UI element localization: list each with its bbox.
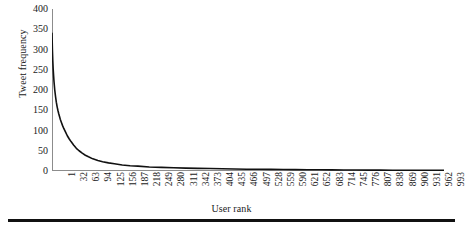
x-tick-label: 435 [237,172,247,202]
x-tick-label: 776 [371,172,381,202]
x-tick-label: 683 [335,172,345,202]
x-axis-title: User rank [0,203,463,214]
x-tick-label: 900 [420,172,430,202]
y-tick-label: 0 [18,166,48,176]
bottom-divider-rule [8,219,455,222]
series-line-tweet-frequency [52,33,444,170]
y-tick-label: 50 [18,146,48,156]
x-tick-label: 497 [262,172,272,202]
x-tick-label: 156 [128,172,138,202]
x-tick-label: 528 [274,172,284,202]
x-tick-label: 342 [201,172,211,202]
x-tick-label: 125 [116,172,126,202]
y-tick-label: 300 [18,45,48,55]
x-tick-label: 590 [298,172,308,202]
x-tick-label: 63 [91,172,101,202]
x-tick-label: 187 [140,172,150,202]
x-axis-tick-labels: 1326394125156187218249280311342373404435… [52,172,444,202]
x-tick-label: 466 [249,172,259,202]
y-tick-label: 200 [18,85,48,95]
y-tick-label: 350 [18,24,48,34]
y-tick-label: 250 [18,65,48,75]
x-tick-label: 931 [432,172,442,202]
y-tick-label: 150 [18,105,48,115]
x-tick-label: 962 [444,172,454,202]
x-tick-label: 218 [152,172,162,202]
x-tick-label: 280 [176,172,186,202]
x-tick-label: 559 [286,172,296,202]
x-tick-label: 1 [67,172,77,202]
tweet-frequency-curve [52,9,444,171]
x-tick-label: 621 [310,172,320,202]
x-tick-label: 993 [456,172,466,202]
x-tick-label: 869 [408,172,418,202]
x-tick-label: 714 [347,172,357,202]
x-tick-label: 745 [359,172,369,202]
y-axis-tick-labels: 050100150200250300350400 [18,0,48,176]
x-tick-label: 838 [395,172,405,202]
y-tick-label: 100 [18,126,48,136]
x-tick-label: 311 [189,172,199,202]
x-tick-label: 249 [164,172,174,202]
x-tick-label: 807 [383,172,393,202]
x-tick-label: 373 [213,172,223,202]
x-tick-label: 94 [103,172,113,202]
y-tick-label: 400 [18,4,48,14]
x-tick-label: 652 [322,172,332,202]
x-tick-label: 404 [225,172,235,202]
x-tick-label: 32 [79,172,89,202]
plot-area [52,9,444,171]
